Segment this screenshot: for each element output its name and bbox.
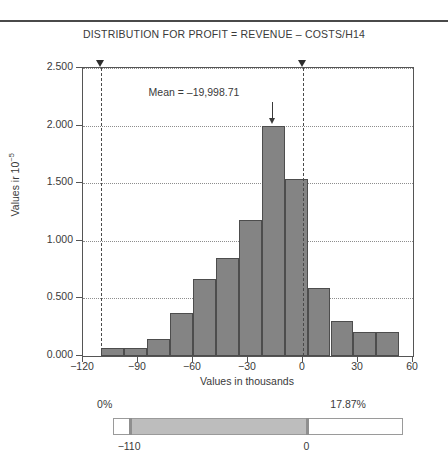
histogram-bar (193, 279, 216, 356)
certainty-marker-lower[interactable] (96, 60, 104, 67)
x-tick-label: 30 (327, 360, 387, 372)
x-tick-label: 0 (272, 360, 332, 372)
plot-inner (83, 68, 413, 356)
histogram-bar (262, 126, 285, 356)
histogram-bar (353, 332, 376, 356)
histogram-bar (331, 321, 354, 356)
histogram-bar (170, 313, 193, 356)
gridline (83, 68, 413, 69)
y-tick-label: 2.000 (13, 118, 73, 130)
mean-annotation-label: Mean = –19,998.71 (0, 86, 448, 98)
certainty-lower-bound[interactable]: −110 (94, 440, 164, 452)
histogram-bar (124, 348, 147, 356)
x-axis-title: Values in thousands (82, 375, 412, 387)
certainty-slider-handle-left[interactable] (129, 418, 132, 435)
x-tick-label: −90 (107, 360, 167, 372)
x-tick-label: 60 (382, 360, 442, 372)
window-top-divider (0, 20, 448, 22)
histogram-bar (216, 258, 239, 356)
mean-arrow-line (272, 102, 273, 119)
forecast-chart-window: DISTRIBUTION FOR PROFIT = REVENUE – COST… (0, 0, 448, 462)
gridline (83, 183, 413, 184)
y-tick-label: 0.000 (13, 348, 73, 360)
x-tick-label: −120 (52, 360, 112, 372)
y-tick-label: 1.000 (13, 233, 73, 245)
certainty-marker-upper[interactable] (298, 60, 306, 67)
histogram-bar (101, 348, 124, 356)
y-axis-title-text: Values ir 10 (9, 162, 21, 217)
page-title: DISTRIBUTION FOR PROFIT = REVENUE – COST… (0, 28, 448, 40)
histogram-bar (147, 339, 170, 356)
histogram-bar (285, 179, 308, 356)
histogram-bar (376, 332, 399, 356)
y-tick-label: 0.500 (13, 290, 73, 302)
y-tick-label: 2.500 (13, 60, 73, 72)
certainty-line-lower[interactable] (101, 68, 102, 356)
certainty-left-percent: 0% (97, 398, 112, 410)
x-tick-label: −60 (162, 360, 222, 372)
y-axis-title: Values ir 10−5 (7, 95, 21, 275)
plot-area (82, 67, 414, 357)
y-tick-label: 1.500 (13, 175, 73, 187)
histogram-bar (239, 220, 262, 356)
x-tick-label: −30 (217, 360, 277, 372)
y-axis-title-exponent: −5 (7, 153, 16, 162)
gridline (83, 126, 413, 127)
mean-arrow-head (269, 118, 275, 124)
certainty-upper-bound[interactable]: 0 (271, 440, 341, 452)
certainty-slider[interactable] (113, 418, 403, 435)
certainty-slider-handle-right[interactable] (306, 418, 309, 435)
certainty-slider-fill (130, 419, 307, 434)
histogram-bar (308, 288, 331, 356)
certainty-right-percent: 17.87% (330, 398, 366, 410)
certainty-line-upper[interactable] (303, 68, 304, 356)
